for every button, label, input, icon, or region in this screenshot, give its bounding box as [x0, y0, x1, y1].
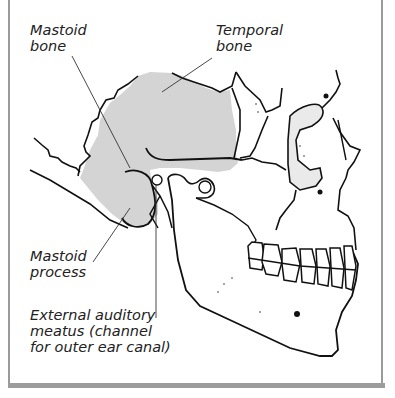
label-temporal-bone: Temporal bone	[216, 22, 283, 54]
label-mastoid-bone: Mastoid bone	[30, 22, 87, 54]
label-external-auditory-meatus: External auditory meatus (channel for ou…	[30, 307, 171, 355]
label-mastoid-process: Mastoid process	[30, 248, 87, 280]
